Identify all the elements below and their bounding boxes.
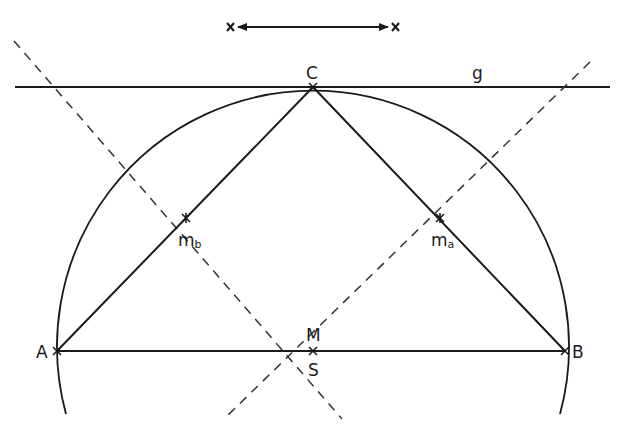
bisector-bc-dashed: [224, 62, 590, 419]
point-mb-marker: [182, 213, 190, 223]
label-ma: ma: [431, 230, 454, 251]
label-a: A: [36, 342, 48, 362]
geometry-diagram: C g A B M S mb ma: [0, 0, 621, 441]
label-mb: mb: [178, 230, 202, 251]
label-g: g: [472, 63, 483, 83]
triangle-abc: [57, 87, 565, 351]
label-c: C: [306, 63, 318, 83]
point-markers: [53, 83, 569, 355]
label-m: M: [306, 325, 321, 345]
label-s: S: [308, 360, 319, 380]
distance-marker: [227, 23, 399, 31]
label-b: B: [572, 342, 584, 362]
